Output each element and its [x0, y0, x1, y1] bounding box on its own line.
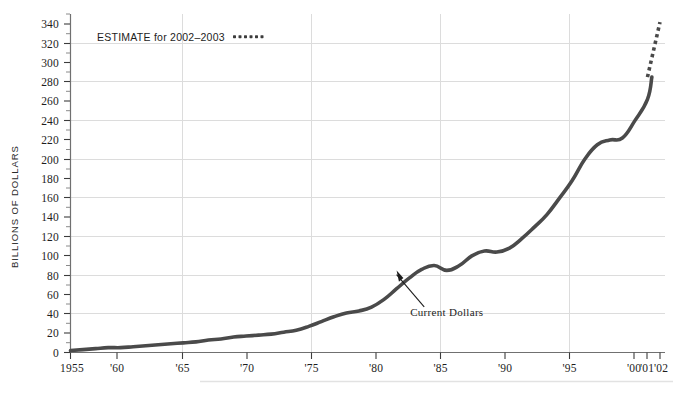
x-tick-label: '01 — [640, 362, 654, 374]
x-tick-label: '70 — [240, 362, 254, 374]
x-axis-tick-labels: 1955 '60 '65 '70 '75 '80 '85 '90 '95 '00… — [60, 362, 668, 374]
legend-label: ESTIMATE for 2002–2003 — [97, 31, 225, 43]
y-tick-label: 240 — [41, 115, 59, 127]
y-tick-label: 20 — [47, 327, 59, 339]
y-tick-label: 180 — [41, 173, 59, 185]
annotation-label: Current Dollars — [410, 306, 483, 318]
y-tick-label: 160 — [41, 192, 59, 204]
x-tick-label: '75 — [304, 362, 318, 374]
data-line-current-dollars — [71, 77, 652, 350]
y-tick-label: 260 — [41, 95, 59, 107]
x-tick-label: '02 — [654, 362, 668, 374]
vertical-gridlines — [183, 14, 570, 352]
y-tick-label: 100 — [41, 250, 59, 262]
y-tick-label: 0 — [53, 347, 59, 359]
x-tick-label: '65 — [175, 362, 189, 374]
y-tick-label: 40 — [47, 308, 59, 320]
y-axis-tick-labels: 340 320 300 280 260 240 220 200 180 160 … — [41, 18, 59, 359]
horizontal-gridlines — [70, 44, 665, 314]
x-tick-label: 1955 — [60, 362, 84, 374]
data-line-estimate — [647, 22, 660, 77]
x-tick-label: '80 — [369, 362, 383, 374]
legend: ESTIMATE for 2002–2003 — [97, 31, 264, 43]
line-chart: 340 320 300 280 260 240 220 200 180 160 … — [0, 0, 673, 395]
y-tick-label: 140 — [41, 211, 59, 223]
x-tick-label: '90 — [498, 362, 512, 374]
y-tick-label: 340 — [41, 18, 59, 30]
y-tick-label: 300 — [41, 57, 59, 69]
y-tick-label: 280 — [41, 76, 59, 88]
y-axis-title: BILLIONS OF DOLLARS — [9, 145, 20, 268]
x-tick-label: '85 — [433, 362, 447, 374]
x-tick-label: '95 — [562, 362, 576, 374]
chart-page: 340 320 300 280 260 240 220 200 180 160 … — [0, 0, 673, 395]
y-tick-label: 320 — [41, 38, 59, 50]
y-tick-label: 220 — [41, 134, 59, 146]
y-tick-label: 120 — [41, 231, 59, 243]
y-tick-label: 80 — [47, 270, 59, 282]
dotted-line-swatch-icon — [233, 35, 264, 38]
x-axis-ticks — [71, 353, 661, 360]
y-tick-label: 200 — [41, 154, 59, 166]
x-tick-label: '60 — [110, 362, 124, 374]
y-tick-label: 60 — [47, 289, 59, 301]
